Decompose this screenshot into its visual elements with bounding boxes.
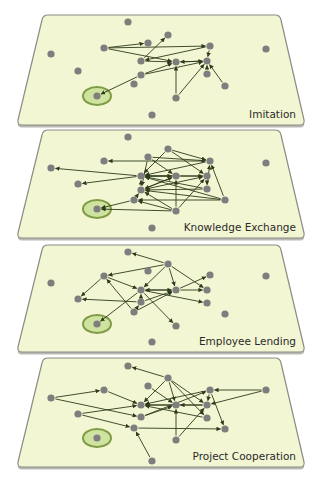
firm-node xyxy=(137,186,144,193)
firm-node xyxy=(137,286,144,293)
firm-node xyxy=(93,434,100,441)
firm-node xyxy=(137,413,144,420)
firm-node xyxy=(221,310,228,317)
firm-node xyxy=(124,248,131,255)
firm-node xyxy=(100,386,107,393)
firm-node xyxy=(74,410,81,417)
firm-node xyxy=(100,44,107,51)
firm-node xyxy=(203,185,210,192)
firm-node xyxy=(100,157,107,164)
layer-panel-employee-lending: Employee Lending xyxy=(18,245,304,355)
firm-node xyxy=(74,67,81,74)
firm-node xyxy=(130,196,137,203)
firm-node xyxy=(221,425,228,432)
firm-node xyxy=(164,260,171,267)
firm-node xyxy=(262,159,269,166)
firm-node xyxy=(137,172,144,179)
firm-node xyxy=(206,42,213,49)
firm-node xyxy=(206,271,213,278)
layer-label: Imitation xyxy=(249,108,296,120)
firm-node xyxy=(144,153,151,160)
firm-node xyxy=(148,111,155,118)
firm-node xyxy=(172,436,179,443)
firm-node xyxy=(172,172,179,179)
layer-panel-project-cooperation: Project Cooperation xyxy=(18,358,304,470)
firm-node xyxy=(221,82,228,89)
firm-node xyxy=(124,18,131,25)
firm-node xyxy=(124,362,131,369)
firm-node xyxy=(203,414,210,421)
layer-label: Employee Lending xyxy=(199,335,296,347)
firm-node xyxy=(144,267,151,274)
layer-panel-imitation: Imitation xyxy=(18,15,304,128)
firm-node xyxy=(100,272,107,279)
firm-node xyxy=(172,322,179,329)
firm-node xyxy=(47,279,54,286)
firm-node xyxy=(203,401,210,408)
firm-node xyxy=(93,205,100,212)
firm-node xyxy=(47,164,54,171)
firm-node xyxy=(172,401,179,408)
firm-node xyxy=(124,133,131,140)
layer-label: Project Cooperation xyxy=(193,450,296,462)
firm-node xyxy=(144,382,151,389)
firm-node xyxy=(203,57,210,64)
firm-node xyxy=(262,45,269,52)
multiplex-network-diagram: ImitationKnowledge ExchangeEmployee Lend… xyxy=(0,0,321,484)
firm-node xyxy=(203,299,210,306)
firm-node xyxy=(148,224,155,231)
firm-node xyxy=(203,172,210,179)
firm-node xyxy=(74,180,81,187)
firm-node xyxy=(262,386,269,393)
firm-node xyxy=(130,424,137,431)
firm-node xyxy=(137,71,144,78)
firm-node xyxy=(93,92,100,99)
firm-node xyxy=(137,298,144,305)
firm-node xyxy=(203,286,210,293)
firm-node xyxy=(47,394,54,401)
firm-node xyxy=(172,94,179,101)
firm-node xyxy=(206,386,213,393)
firm-node xyxy=(221,196,228,203)
layer-panel-knowledge-exchange: Knowledge Exchange xyxy=(18,130,304,241)
firm-node xyxy=(206,157,213,164)
firm-node xyxy=(164,31,171,38)
firm-node xyxy=(144,39,151,46)
firm-node xyxy=(130,80,137,87)
firm-node xyxy=(93,320,100,327)
firm-node xyxy=(130,308,137,315)
firm-node xyxy=(148,457,155,464)
firm-node xyxy=(47,50,54,57)
firm-node xyxy=(148,338,155,345)
firm-node xyxy=(172,207,179,214)
firm-node xyxy=(137,401,144,408)
firm-node xyxy=(164,374,171,381)
firm-node xyxy=(172,286,179,293)
layer-label: Knowledge Exchange xyxy=(184,221,296,233)
firm-node xyxy=(172,58,179,65)
firm-node xyxy=(262,272,269,279)
firm-node xyxy=(137,57,144,64)
firm-node xyxy=(203,70,210,77)
firm-node xyxy=(164,145,171,152)
firm-node xyxy=(74,295,81,302)
